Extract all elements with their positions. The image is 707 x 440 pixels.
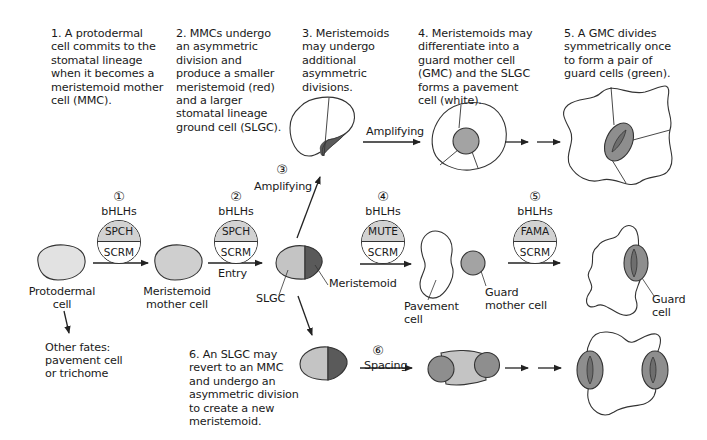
slgc-cell <box>276 246 305 279</box>
bhlh-label: bHLHs <box>509 205 561 218</box>
guard-cell-label: Guard cell <box>652 293 685 319</box>
marker-5: ⑤ <box>509 190 561 204</box>
spacing-label: Spacing <box>364 359 407 372</box>
marker-1: ① <box>93 190 145 204</box>
stoma-middle <box>587 226 654 316</box>
step-4-text: 4. Meristemoids may differentiate into a… <box>418 27 532 107</box>
amplifying-top-label: Amplifying <box>366 125 424 138</box>
mmc-label: Meristemoid mother cell <box>137 285 217 311</box>
slgc-label: SLGC <box>256 292 285 305</box>
tf-group-1: ① bHLHs SPCH SCRM <box>93 190 145 264</box>
mmc-cell <box>155 245 202 280</box>
step-5-text: 5. A GMC divides symmetrically once to f… <box>564 27 671 81</box>
step-3-text: 3. Meristemoids may undergo additional a… <box>302 27 389 94</box>
stomata-top <box>564 86 672 185</box>
marker-4: ④ <box>357 190 409 204</box>
spacing-cells <box>428 350 500 385</box>
tf-badge-spch-scrm: SPCH SCRM <box>214 220 258 264</box>
entry-label: Entry <box>218 267 247 280</box>
gmc-top-cell <box>432 103 506 171</box>
amplifying-marker: ③ <box>275 163 289 176</box>
protodermal-label: Protodermal cell <box>22 285 102 311</box>
tf-badge-spch-scrm: SPCH SCRM <box>97 220 141 264</box>
step-1-text: 1. A protodermal cell commits to the sto… <box>51 27 163 107</box>
meristemoid-label: Meristemoid <box>329 277 397 290</box>
meristemoid-cell <box>305 246 322 279</box>
tf-group-5: ⑤ bHLHs FAMA SCRM <box>509 190 561 264</box>
protodermal-cell <box>38 245 85 280</box>
arrow-to-spacing <box>298 296 312 335</box>
amplifying-cell <box>290 97 355 156</box>
tf-group-4: ④ bHLHs MUTE SCRM <box>357 190 409 264</box>
pavement-gmc <box>420 231 486 300</box>
step-2-text: 2. MMCs undergo an asymmetric division a… <box>176 27 281 134</box>
amplifying-label: Amplifying <box>254 180 312 193</box>
pavement-label: Pavement cell <box>404 300 459 326</box>
gmc-label: Guard mother cell <box>485 286 547 312</box>
tf-badge-mute-scrm: MUTE SCRM <box>361 220 405 264</box>
slgc-revert-cell <box>300 347 328 380</box>
step-6-text: 6. An SLGC may revert to an MMC and unde… <box>189 348 299 428</box>
bhlh-label: bHLHs <box>210 205 262 218</box>
spacing-marker: ⑥ <box>371 344 385 357</box>
other-fates-label: Other fates: pavement cell or trichome <box>45 341 123 380</box>
arrow-other-fates <box>64 311 69 333</box>
stomata-pair <box>577 332 668 415</box>
bhlh-label: bHLHs <box>93 205 145 218</box>
new-meristemoid-cell <box>328 347 347 380</box>
tf-group-2: ② bHLHs SPCH SCRM <box>210 190 262 264</box>
bhlh-label: bHLHs <box>357 205 409 218</box>
tf-badge-fama-scrm: FAMA SCRM <box>513 220 557 264</box>
